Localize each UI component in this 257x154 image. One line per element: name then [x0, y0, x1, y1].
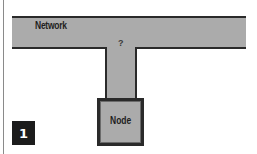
left-border-rule: [3, 0, 4, 154]
node-label: Node: [110, 115, 131, 126]
connection-stem: [105, 47, 137, 99]
step-number-badge: 1: [12, 121, 35, 145]
connection-question-mark: ?: [118, 38, 124, 48]
network-label: Network: [35, 20, 67, 31]
